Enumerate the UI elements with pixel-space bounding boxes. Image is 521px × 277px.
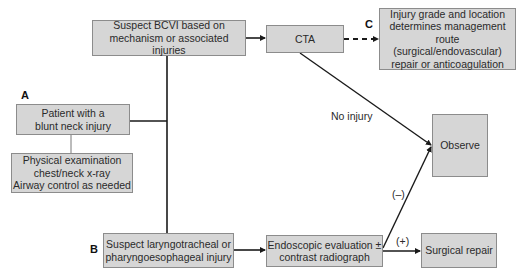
observe-node: Observe (432, 114, 488, 177)
negative-label: (–) (392, 188, 405, 200)
physical-exam-node: Physical examination chest/neck x-ray Ai… (11, 153, 133, 193)
cta-node: CTA (266, 25, 344, 53)
positive-label: (+) (396, 235, 409, 247)
no-injury-label: No injury (331, 110, 372, 122)
patient-node: Patient with a blunt neck injury (16, 104, 130, 135)
suspect-bcvi-node: Suspect BCVI based on mechanism or assoc… (92, 20, 246, 56)
marker-a: A (21, 89, 29, 101)
marker-c: C (365, 18, 373, 30)
suspect-laryngo-node: Suspect laryngotracheal or pharyngoesoph… (103, 233, 234, 268)
endoscopic-node: Endoscopic evaluation ± contrast radiogr… (266, 235, 383, 267)
marker-b: B (90, 243, 98, 255)
surgical-repair-node: Surgical repair (421, 233, 497, 268)
flowchart-canvas: Suspect BCVI based on mechanism or assoc… (0, 0, 521, 277)
injury-grade-node: Injury grade and location determines man… (379, 8, 516, 70)
